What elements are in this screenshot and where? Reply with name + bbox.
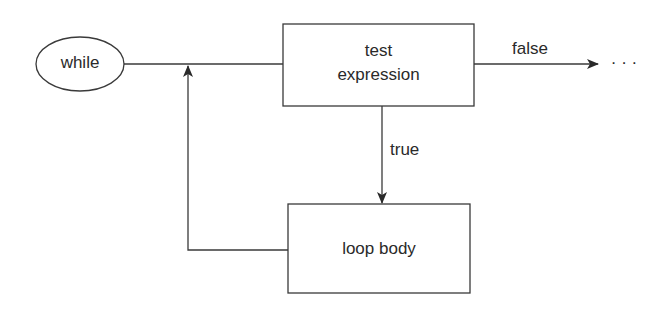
test-label-line1: test xyxy=(283,40,474,62)
true-label: true xyxy=(390,139,430,161)
continuation-dots: · · · xyxy=(604,52,644,74)
false-label: false xyxy=(500,38,560,60)
edge-loop-back xyxy=(188,66,288,250)
while-label: while xyxy=(36,52,124,74)
test-label-line2: expression xyxy=(283,64,474,86)
loop-body-label: loop body xyxy=(288,238,470,260)
